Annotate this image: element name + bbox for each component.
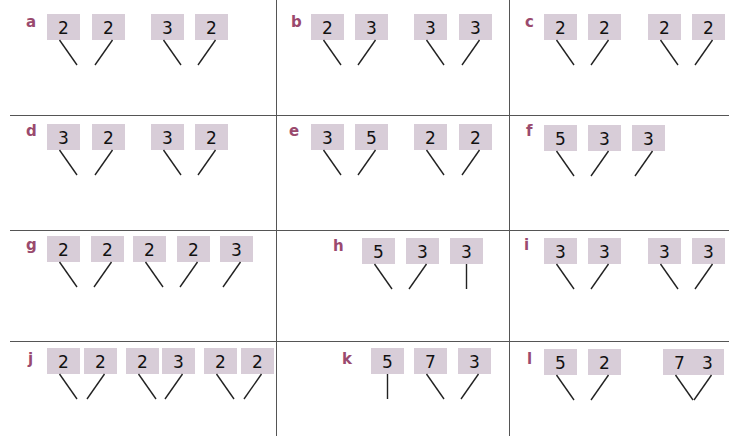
number-box: 5: [362, 238, 395, 264]
number-box: 3: [311, 124, 344, 150]
problem-label: f: [526, 124, 533, 139]
number-box: 5: [355, 124, 388, 150]
number-box: 3: [458, 348, 491, 374]
number-box: 3: [588, 125, 621, 151]
number-box: 2: [588, 349, 621, 375]
number-box: 2: [126, 348, 159, 374]
number-box: 2: [195, 124, 228, 150]
problem-label: b: [291, 15, 302, 30]
problem-label: k: [342, 352, 352, 367]
problem-label: c: [525, 15, 534, 30]
number-box: 2: [92, 124, 125, 150]
number-box: 2: [414, 124, 447, 150]
problem-label: d: [26, 124, 37, 139]
number-box: 2: [204, 348, 237, 374]
number-box: 3: [450, 238, 483, 264]
grid-row-divider-2: [10, 230, 729, 231]
number-box: 3: [414, 14, 447, 40]
number-box: 2: [91, 236, 124, 262]
number-box: 3: [151, 14, 184, 40]
number-box: 7: [414, 348, 447, 374]
number-box: 2: [47, 348, 80, 374]
grid-col-divider-1: [276, 0, 277, 436]
problem-label: i: [524, 238, 529, 253]
problem-label: e: [289, 124, 299, 139]
number-box: 3: [632, 125, 665, 151]
number-box: 3: [220, 236, 253, 262]
number-box: 3: [648, 238, 681, 264]
number-box: 3: [406, 238, 439, 264]
grid-row-divider-1: [10, 115, 729, 116]
number-box: 2: [588, 14, 621, 40]
problem-label: l: [527, 352, 532, 367]
number-box: 5: [544, 125, 577, 151]
number-box: 3: [151, 124, 184, 150]
number-box: 3: [692, 238, 725, 264]
problem-label: h: [333, 239, 344, 254]
number-box: 3: [588, 238, 621, 264]
number-box: 2: [47, 14, 80, 40]
number-box: 3: [544, 238, 577, 264]
grid-row-divider-3: [10, 341, 729, 342]
number-box: 3: [691, 349, 724, 375]
number-box: 2: [459, 124, 492, 150]
problem-label: a: [26, 15, 36, 30]
number-box: 5: [544, 349, 577, 375]
number-box: 3: [162, 348, 195, 374]
problem-label: g: [26, 238, 37, 253]
number-box: 2: [84, 348, 117, 374]
number-box: 2: [544, 14, 577, 40]
number-box: 2: [195, 14, 228, 40]
problem-label: j: [28, 352, 33, 367]
number-box: 2: [92, 14, 125, 40]
number-box: 2: [177, 236, 210, 262]
number-box: 3: [355, 14, 388, 40]
number-box: 2: [133, 236, 166, 262]
number-box: 3: [47, 124, 80, 150]
number-box: 3: [459, 14, 492, 40]
number-box: 2: [311, 14, 344, 40]
grid-col-divider-2: [509, 0, 510, 436]
number-box: 2: [648, 14, 681, 40]
number-box: 2: [47, 236, 80, 262]
number-box: 5: [371, 348, 404, 374]
number-box: 2: [692, 14, 725, 40]
number-box: 2: [241, 348, 274, 374]
